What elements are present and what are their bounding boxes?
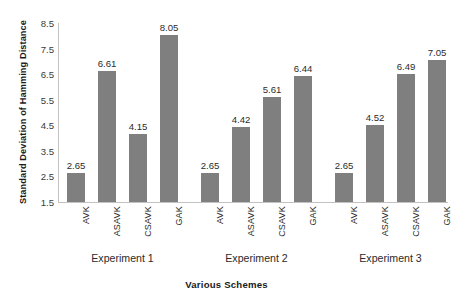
bar-value-label: 4.52 xyxy=(366,112,385,123)
y-axis-tick-label: 2.5 xyxy=(30,171,54,182)
y-axis-tick-label: 3.5 xyxy=(30,145,54,156)
x-axis-group-label: Experiment 3 xyxy=(359,252,421,264)
y-axis-tick-label: 5.5 xyxy=(30,94,54,105)
bar xyxy=(201,173,219,202)
bar xyxy=(98,71,116,202)
y-axis-tick-label: 6.5 xyxy=(30,69,54,80)
y-axis-tick-label: 4.5 xyxy=(30,120,54,131)
bar xyxy=(294,76,312,202)
x-axis-category-label: GAK xyxy=(442,206,453,266)
x-axis-title: Various Schemes xyxy=(0,279,453,290)
x-axis-group-label: Experiment 1 xyxy=(91,252,153,264)
y-axis-title: Standard Deviation of Hamming Distance xyxy=(18,12,34,212)
x-axis-group-label: Experiment 2 xyxy=(225,252,287,264)
bar xyxy=(397,74,415,202)
bar-value-label: 6.61 xyxy=(98,58,117,69)
bar xyxy=(428,60,446,202)
bar-value-label: 8.05 xyxy=(160,22,179,33)
bar-value-label: 5.61 xyxy=(263,84,282,95)
bar-value-label: 7.05 xyxy=(428,47,447,58)
bar-chart: Standard Deviation of Hamming Distance 8… xyxy=(0,0,453,301)
bar-value-label: 2.65 xyxy=(335,160,354,171)
bar-value-label: 6.49 xyxy=(397,61,416,72)
plot-area: 2.656.614.158.052.654.425.616.442.654.52… xyxy=(58,23,448,202)
bar xyxy=(232,127,250,202)
y-axis-tick-label: 1.5 xyxy=(30,197,54,208)
x-axis-category-label: GAK xyxy=(174,206,186,266)
y-axis-tick-label: 8.5 xyxy=(30,18,54,29)
bar xyxy=(67,173,85,202)
bar xyxy=(366,125,384,202)
bar-value-label: 4.15 xyxy=(129,121,148,132)
bar xyxy=(129,134,147,202)
y-axis-line xyxy=(58,23,59,202)
bar xyxy=(160,35,178,202)
y-axis-tick-label: 7.5 xyxy=(30,43,54,54)
bar-value-label: 2.65 xyxy=(201,160,220,171)
x-axis-category-label: GAK xyxy=(308,206,320,266)
bar xyxy=(263,97,281,202)
bar-value-label: 2.65 xyxy=(67,160,86,171)
bar-value-label: 4.42 xyxy=(232,114,251,125)
x-axis-line xyxy=(58,202,448,203)
bar xyxy=(335,173,353,202)
bar-value-label: 6.44 xyxy=(294,63,313,74)
